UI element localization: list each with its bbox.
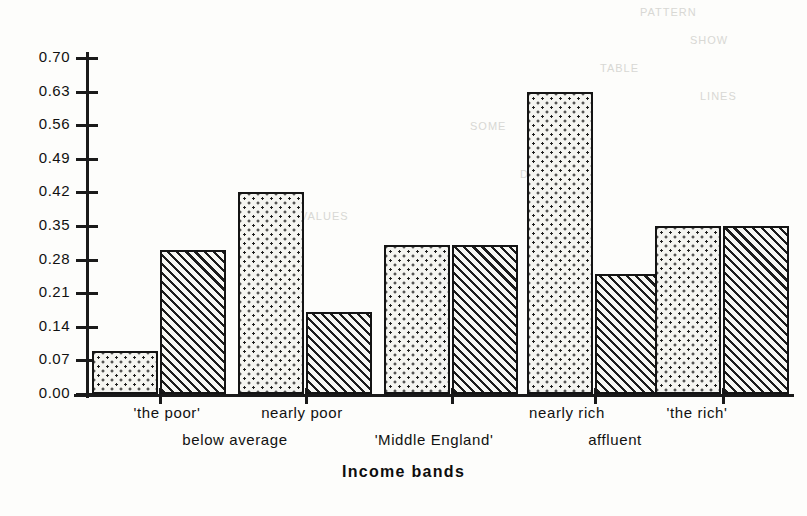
category-label-below-average: below average [140,431,330,448]
bars-container [0,0,807,397]
x-axis-title: Income bands [0,463,807,481]
bar-8 [595,274,661,394]
category-label-affluent: affluent [540,431,690,448]
bar-4 [306,312,372,394]
bar-1 [92,351,158,394]
bar-chart: 0.700.630.560.490.420.350.280.210.140.07… [0,0,807,516]
bar-5 [384,245,450,394]
bar-2 [160,250,226,394]
bar-7 [527,92,593,394]
bar-9 [655,226,721,394]
category-label-nearly-rich: nearly rich [497,404,637,421]
bar-10 [723,226,789,394]
category-label-nearly-poor: nearly poor [222,404,382,421]
bar-6 [452,245,518,394]
bar-3 [238,192,304,394]
category-label-the-poor: 'the poor' [92,404,242,421]
category-label-the-rich: 'the rich' [632,404,762,421]
category-label-middle-england: 'Middle England' [334,431,534,448]
